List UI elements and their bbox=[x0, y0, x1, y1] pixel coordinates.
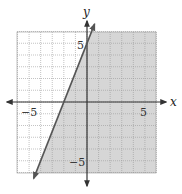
y-tick-label-pos5: 5 bbox=[77, 39, 84, 52]
x-tick-label-neg5: −5 bbox=[21, 106, 37, 119]
inequality-graph: y x −5 5 5 −5 bbox=[0, 0, 182, 194]
y-tick-label-neg5: −5 bbox=[69, 156, 85, 169]
y-axis-label: y bbox=[82, 5, 90, 19]
x-tick-label-pos5: 5 bbox=[140, 106, 147, 119]
x-axis-label: x bbox=[170, 95, 177, 109]
